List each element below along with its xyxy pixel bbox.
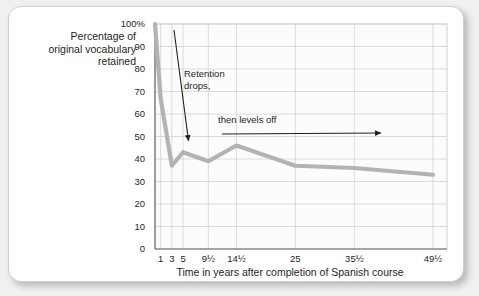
- x-tick-label: 9½: [202, 254, 215, 264]
- chart-figure: Percentage of original vocabulary retain…: [0, 0, 479, 296]
- y-tick-label: 30: [111, 177, 145, 187]
- y-tick-label: 50: [111, 132, 145, 142]
- x-tick-label: 14½: [227, 254, 246, 264]
- x-tick-label: 49½: [424, 254, 443, 264]
- x-tick-label: 35½: [345, 254, 364, 264]
- x-axis-title: Time in years after completion of Spanis…: [140, 266, 440, 278]
- x-tick-label: 1: [158, 254, 163, 264]
- annotation-retention-drops: Retention drops,: [184, 68, 225, 91]
- annotation-retention-drops-line-2: drops,: [184, 80, 225, 92]
- y-tick-label: 60: [111, 109, 145, 119]
- screenshot-root: Percentage of original vocabulary retain…: [0, 0, 479, 296]
- x-tick-label: 3: [169, 254, 174, 264]
- annotation-then-levels-off: then levels off: [218, 114, 276, 126]
- y-tick-label: 70: [111, 87, 145, 97]
- y-tick-label: 20: [111, 199, 145, 209]
- x-tick-label: 25: [290, 254, 301, 264]
- gridlines: [155, 24, 447, 249]
- y-tick-label: 90: [111, 42, 145, 52]
- y-tick-label: 80: [111, 64, 145, 74]
- y-tick-label: 40: [111, 154, 145, 164]
- x-tick-label: 5: [180, 254, 185, 264]
- y-tick-label: 10: [111, 222, 145, 232]
- y-tick-label: 0: [111, 244, 145, 254]
- annotation-retention-drops-line-1: Retention: [184, 68, 225, 80]
- y-tick-label: 100%: [111, 19, 145, 29]
